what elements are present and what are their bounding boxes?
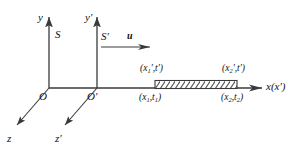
- x-axis-label: x(x′): [266, 81, 286, 92]
- rod-left-prime-coord-label: (x1′,t′): [140, 64, 163, 74]
- diagram-canvas: [0, 0, 288, 151]
- moving-frame-label: S′: [101, 31, 109, 42]
- coord-text-tail: ′,t′): [233, 63, 245, 73]
- origin-label: O: [39, 91, 47, 102]
- axis-group-s: [17, 17, 49, 125]
- axis-group-s-prime: [65, 17, 97, 125]
- z-prime-axis-label: z′: [55, 133, 62, 144]
- relativity-frames-diagram: y y′ x(x′) z z′ S S′ u O O′ (x1′,t′) (x1…: [0, 0, 288, 151]
- origin-prime-label: O′: [87, 91, 97, 102]
- rod-right-coord-label: (x2,t2): [221, 93, 243, 103]
- y-axis-label: y: [38, 12, 43, 23]
- y-prime-axis-label: y′: [85, 12, 92, 23]
- hatched-rod: [155, 81, 237, 89]
- coord-text-tail: ): [240, 92, 243, 102]
- coord-text-tail: ): [158, 92, 161, 102]
- coord-text-tail: ′,t′): [151, 63, 163, 73]
- z-axis-label: z: [7, 133, 11, 144]
- rod-right-prime-coord-label: (x2′,t′): [222, 64, 245, 74]
- rod-left-coord-label: (x1,t1): [139, 93, 161, 103]
- velocity-label: u: [127, 31, 133, 41]
- rest-frame-label: S: [55, 29, 61, 40]
